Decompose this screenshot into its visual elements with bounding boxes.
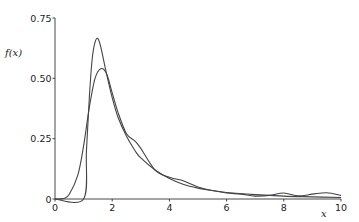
y-tick-label: 0.25 <box>30 133 51 144</box>
y-axis-label: f(x) <box>4 47 22 58</box>
x-tick-label: 10 <box>335 202 347 213</box>
x-tick-label: 4 <box>166 202 172 213</box>
x-tick-label: 0 <box>52 202 58 213</box>
x-tick-label: 8 <box>281 202 287 213</box>
y-tick-label: 0.50 <box>30 73 51 84</box>
axes <box>55 18 341 199</box>
y-tick-label: 0 <box>45 194 51 205</box>
data-series <box>55 38 341 202</box>
curve-b-line <box>55 68 341 199</box>
x-axis-label: x <box>321 208 327 219</box>
curve-a-line <box>55 38 341 202</box>
x-tick-label: 2 <box>109 202 115 213</box>
x-tick-label: 6 <box>224 202 230 213</box>
density-chart: 024681000.250.500.75 f(x) x <box>0 0 359 222</box>
y-tick-label: 0.75 <box>30 13 51 24</box>
